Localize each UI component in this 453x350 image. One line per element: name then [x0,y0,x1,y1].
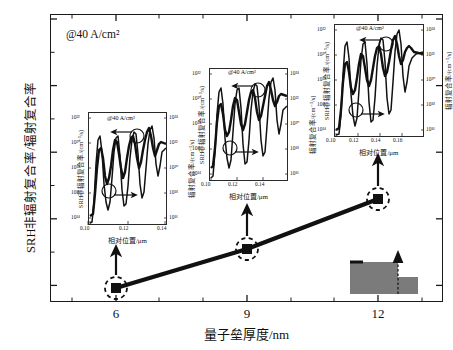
inset-qb9-ry-tick-2: 10²⁰ [290,120,299,126]
inset-qb9-ry-tick-0: 10²⁴ [290,70,299,76]
inset-qb9-ly-tick-0: 10²² [192,70,201,76]
inset-qb6-ly-tick-4: 10¹⁴ [71,214,80,220]
inset-qb6-ly-tick-2: 10¹⁸ [71,164,80,170]
inset-qb6-x-tick-2: 0.14 [157,225,166,231]
inset-qb9-x-tick-2: 0.14 [255,181,264,187]
inset-qb6-x-axis-title: 相对位置/μm [88,235,167,245]
x-tick-label-6: 6 [96,306,136,322]
inset-qb9-ry-tick-1: 10²² [290,95,299,101]
inset-qb6-ry-tick-3: 10¹⁸ [169,189,178,195]
inset-qb6-ly-tick-0: 10²² [71,114,80,120]
inset-qb9-ry-tick-3: 10¹⁸ [290,145,299,151]
structure-schematic [350,250,418,294]
data-point-marker-9 [236,238,258,260]
inset-qb9-ry-tick-4: 10¹⁶ [290,170,299,176]
inset-qb12-x-tick-2: 0.14 [371,137,380,143]
inset-qb12-x-tick-3: 0.16 [393,137,402,143]
x-major-ticks [116,295,378,302]
inset-qb12-ry-tick-1: 10²² [426,51,435,57]
inset-qb6-ry-tick-2: 10²⁰ [169,164,178,170]
inset-qb12-ry-tick-0: 10²⁴ [426,26,435,32]
inset-qb6-condition: @40 A/cm² [107,115,135,121]
inset-qb12-x-axis-title: 相对位置/μm [334,147,424,157]
inset-qb6-x-tick-0: 0.10 [80,225,89,231]
inset-qb6-ry-tick-4: 10¹⁶ [169,214,178,220]
x-axis-title: 量子垒厚度/nm [50,324,443,343]
inset-qb12-ly-tick-2: 10¹⁸ [317,76,326,82]
y-axis-title: SRH非辐射复合率/辐射复合率 [20,43,39,293]
inset-qb12-x-tick-0: 0.10 [326,137,335,143]
condition-annotation: @40 A/cm² [66,28,119,40]
inset-qb9-condition: @40 A/cm² [228,69,256,75]
inset-qb6-ry-tick-0: 10²⁴ [169,114,178,120]
inset-qb12-ly-tick-1: 10²⁰ [317,51,326,57]
inset-qb12-right-axis-title: 辐射复合率/(cm⁻³/s) [443,26,453,136]
figure-canvas: 700 600 500 400 300 6 9 12 SRH非辐射复合率/辐射复… [0,0,453,350]
inset-qb9-x-tick-1: 0.12 [228,181,237,187]
inset-qb6-ry-tick-1: 10²² [169,139,178,145]
x-tick-label-9: 9 [227,306,267,322]
inset-qb9-ly-tick-1: 10²⁰ [192,95,201,101]
inset-qb12-ly-tick-3: 10¹⁶ [317,101,326,107]
inset-qb12: @40 A/cm² SRH非辐射复合率/(cm⁻³/s) 辐射复合率/(cm⁻³… [308,18,448,160]
inset-qb9: @40 A/cm² SRH非辐射复合率/(cm⁻³/s) 辐射复合率/(cm⁻³… [183,62,311,204]
inset-qb9-x-tick-0: 0.10 [201,181,210,187]
inset-qb12-ly-tick-0: 10²² [317,26,326,32]
inset-qb12-ry-tick-4: 10¹⁶ [426,126,435,132]
inset-qb6-x-tick-1: 0.12 [119,225,128,231]
inset-qb9-ly-tick-2: 10¹⁸ [192,120,201,126]
inset-qb9-ly-tick-3: 10¹⁶ [192,145,201,151]
inset-qb12-condition: @40 A/cm² [356,25,384,31]
inset-qb9-ly-tick-4: 10¹⁴ [192,170,201,176]
inset-qb9-x-axis-title: 相对位置/μm [209,191,288,201]
inset-qb6-ly-tick-1: 10²⁰ [71,139,80,145]
inset-qb6: @40 A/cm² SRH非辐射复合率/(cm⁻³/s) 辐射复合率/(cm⁻³… [62,106,190,248]
inset-qb12-ry-tick-3: 10¹⁸ [426,101,435,107]
y-major-ticks [50,19,57,285]
inset-qb6-ly-tick-3: 10¹⁶ [71,189,80,195]
inset-qb12-x-tick-1: 0.12 [349,137,358,143]
inset-qb12-ly-tick-4: 10¹⁴ [317,126,326,132]
data-point-marker-12 [367,188,389,210]
inset-qb12-ry-tick-2: 10²⁰ [426,76,435,82]
x-tick-label-12: 12 [358,306,398,322]
